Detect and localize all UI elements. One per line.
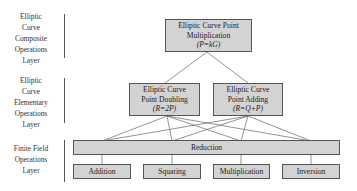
node-title: Squaring xyxy=(158,167,185,177)
node-inversion: Inversion xyxy=(282,164,340,179)
label-line: Elliptic xyxy=(0,75,62,86)
node-addition: Addition xyxy=(73,164,131,179)
layer-divider-elementary xyxy=(64,78,65,123)
node-title: Elliptic Curve xyxy=(143,85,186,95)
label-line: Finite Field xyxy=(0,143,62,154)
label-line: Curve xyxy=(0,22,62,33)
label-line: Operations xyxy=(0,44,62,55)
node-title: Multiplication xyxy=(220,167,263,177)
layer-label-composite: Elliptic Curve Composite Operations Laye… xyxy=(0,11,62,66)
node-title: Point Doubling xyxy=(141,95,188,105)
node-reduction: Reduction xyxy=(73,140,340,155)
node-title: Inversion xyxy=(297,167,326,177)
label-line: Curve xyxy=(0,86,62,97)
node-formula: (R=Q+P) xyxy=(233,104,263,114)
node-multiplication: Multiplication xyxy=(213,164,270,179)
layer-label-finite-field: Finite Field Operations Layer xyxy=(0,143,62,176)
node-formula: (R=2P) xyxy=(153,104,176,114)
node-point-multiplication: Elliptic Curve Point Multiplication (P=k… xyxy=(165,19,252,52)
label-line: Operations xyxy=(0,154,62,165)
layer-divider-finite-field xyxy=(64,140,65,182)
node-formula: (P=kG) xyxy=(197,40,221,50)
label-line: Layer xyxy=(0,55,62,66)
layer-divider-composite xyxy=(64,14,65,58)
node-point-doubling: Elliptic Curve Point Doubling (R=2P) xyxy=(129,83,200,116)
label-line: Elliptic xyxy=(0,11,62,22)
label-line: Elementary xyxy=(0,97,62,108)
node-squaring: Squaring xyxy=(143,164,201,179)
label-line: Layer xyxy=(0,165,62,176)
node-title: Multiplication xyxy=(187,31,230,41)
node-title: Reduction xyxy=(191,143,222,153)
label-line: Operations xyxy=(0,108,62,119)
node-title: Elliptic Curve Point xyxy=(178,21,239,31)
node-title: Point Adding xyxy=(228,95,268,105)
layer-label-elementary: Elliptic Curve Elementary Operations Lay… xyxy=(0,75,62,130)
node-point-adding: Elliptic Curve Point Adding (R=Q+P) xyxy=(213,83,283,116)
node-title: Addition xyxy=(88,167,115,177)
label-line: Layer xyxy=(0,119,62,130)
label-line: Composite xyxy=(0,33,62,44)
node-title: Elliptic Curve xyxy=(227,85,270,95)
